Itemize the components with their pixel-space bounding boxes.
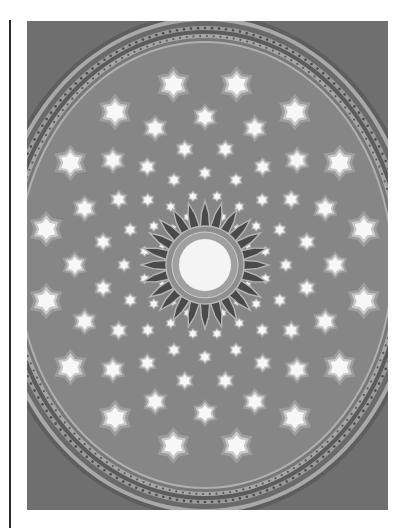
dome-illustration <box>27 21 388 510</box>
left-margin-rule <box>9 20 11 528</box>
dome-photograph <box>27 21 388 510</box>
central-rosette <box>141 201 269 329</box>
